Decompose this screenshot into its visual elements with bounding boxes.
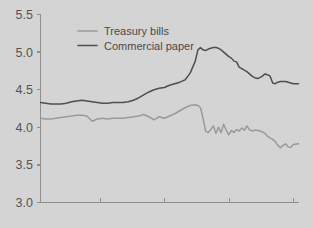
- y-axis-tick-labels: 5.5 5.0 4.5 4.0 3.5 3.0: [16, 8, 33, 210]
- y-tick-label-5: 3.0: [16, 196, 33, 210]
- legend-label-treasury-bills: Treasury bills: [104, 25, 169, 37]
- legend-label-commercial-paper: Commercial paper: [104, 40, 194, 52]
- series-group: [41, 48, 299, 148]
- y-tick-label-4: 3.5: [16, 158, 33, 172]
- y-tick-label-2: 4.5: [16, 83, 33, 97]
- x-axis-ticks: [101, 198, 294, 203]
- y-tick-label-3: 4.0: [16, 121, 33, 135]
- line-chart: 5.5 5.0 4.5 4.0 3.5 3.0 Treasury bills: [0, 0, 313, 228]
- chart-legend: Treasury bills Commercial paper: [78, 25, 194, 52]
- y-tick-label-0: 5.5: [16, 8, 33, 22]
- series-line-treasury-bills: [41, 105, 299, 148]
- y-tick-label-1: 5.0: [16, 46, 33, 60]
- chart-container: 5.5 5.0 4.5 4.0 3.5 3.0 Treasury bills: [0, 0, 313, 228]
- series-line-commercial-paper: [41, 48, 299, 104]
